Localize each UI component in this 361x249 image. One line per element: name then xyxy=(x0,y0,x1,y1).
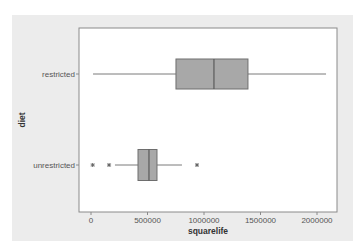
x-tick-label: 0 xyxy=(89,216,94,225)
y-axis: restrictedunrestricted xyxy=(33,70,79,170)
y-tick-label-restricted: restricted xyxy=(42,70,75,79)
x-tick-label: 1000000 xyxy=(188,216,220,225)
x-axis: 0500000100000015000002000000 xyxy=(89,212,333,225)
outlier-marker xyxy=(91,163,95,167)
x-tick-label: 2000000 xyxy=(301,216,333,225)
x-tick-label: 1500000 xyxy=(245,216,277,225)
y-axis-title: diet xyxy=(17,112,27,127)
iqr-box xyxy=(176,59,248,89)
outlier-marker xyxy=(107,163,111,167)
outlier-marker xyxy=(195,163,199,167)
x-tick-label: 500000 xyxy=(134,216,161,225)
plot-area xyxy=(79,28,337,212)
boxplot-chart: 0500000100000015000002000000 restrictedu… xyxy=(0,0,361,249)
iqr-box xyxy=(138,150,157,181)
x-axis-title: squarelife xyxy=(188,226,228,236)
y-tick-label-unrestricted: unrestricted xyxy=(33,161,75,170)
